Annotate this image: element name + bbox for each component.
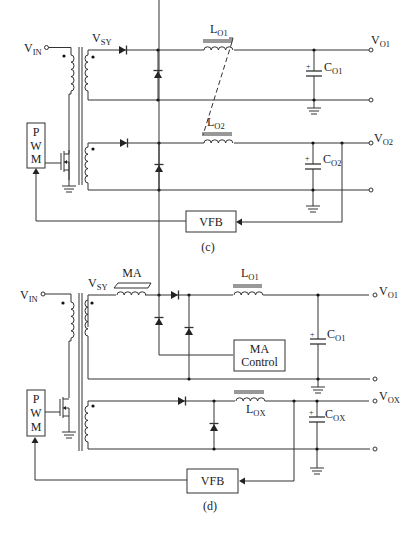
vin-label-d: VIN [20, 288, 38, 304]
ma-label: MA [122, 266, 142, 280]
vo1-label-c: VO1 [371, 33, 390, 49]
vin-label-c: VIN [24, 41, 42, 57]
vo2-label-c: VO2 [374, 131, 393, 147]
co1-label-c: CO1 [324, 60, 342, 76]
svg-text:W: W [30, 139, 42, 153]
caption-d: (d) [203, 499, 217, 513]
svg-text:+: + [305, 154, 310, 163]
cox-label: COX [325, 407, 345, 423]
svg-text:+: + [310, 330, 315, 339]
caption-c: (c) [201, 240, 214, 254]
vo1-terminal-c [369, 48, 373, 52]
vsy-label-d: VSY [88, 276, 108, 292]
svg-text:Control: Control [241, 355, 278, 369]
lo1-label-c: LO1 [210, 22, 228, 38]
co1-label-d: CO1 [327, 327, 345, 343]
vsy-label-c: VSY [92, 31, 112, 47]
diode-c-1 [119, 46, 127, 55]
vin-terminal-c [45, 46, 49, 50]
svg-text:P: P [33, 125, 40, 139]
lo2-label-c: LO2 [207, 115, 225, 131]
vo2-terminal-c [369, 141, 373, 145]
lo1-label-d: LO1 [241, 266, 259, 282]
svg-text:VFB: VFB [199, 215, 222, 229]
svg-text:M: M [31, 420, 42, 434]
vox-label: VOX [379, 389, 400, 405]
svg-text:+: + [306, 62, 311, 71]
schematic-c: VIN VSY LO1 + [24, 22, 393, 232]
lox-label: LOX [246, 402, 266, 418]
svg-text:VFB: VFB [201, 474, 224, 488]
svg-text:M: M [31, 152, 42, 166]
svg-text:MA: MA [250, 342, 270, 356]
svg-text:W: W [30, 406, 42, 420]
svg-text:+: + [309, 408, 314, 417]
co2-label-c: CO2 [323, 152, 341, 168]
vo1-label-d: VO1 [379, 284, 398, 300]
svg-text:P: P [33, 392, 40, 406]
